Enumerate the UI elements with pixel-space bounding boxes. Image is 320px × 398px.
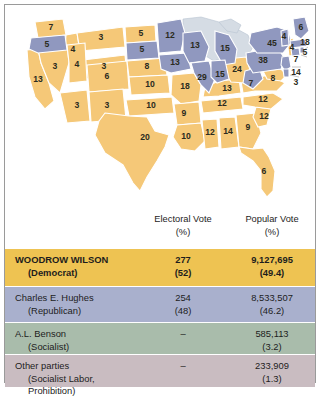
svg-text:9: 9 (246, 122, 251, 132)
popular-vote-cell: 233,909 (1.3) (229, 360, 315, 385)
map-svg: 7 5 4 3 3 13 3 4 6 3 3 5 5 8 10 10 20 12… (5, 5, 315, 205)
electoral-vote-percent: (48) (137, 305, 229, 318)
column-header-popular-vote: Popular Vote (%) (229, 213, 315, 247)
candidate-name: Charles E. Hughes (15, 292, 94, 303)
state-AR (174, 102, 201, 125)
electoral-vote-value: 254 (137, 292, 229, 305)
electoral-vote-value: – (137, 360, 229, 373)
svg-text:5: 5 (139, 28, 144, 38)
table-row: A.L. Benson (Socialist) – 585,113 (3.2) (5, 323, 315, 355)
popular-vote-percent: (46.2) (229, 305, 315, 318)
popular-vote-value: 585,113 (229, 328, 315, 341)
svg-text:3: 3 (294, 77, 299, 87)
candidate-party: (Socialist Labor, Prohibition) (15, 373, 140, 398)
svg-text:10: 10 (146, 100, 156, 110)
svg-text:3: 3 (75, 100, 80, 110)
table-row: Charles E. Hughes (Republican) 254 (48) … (5, 287, 315, 323)
svg-text:6: 6 (299, 22, 304, 32)
svg-text:15: 15 (215, 69, 225, 79)
electoral-vote-value: 277 (137, 254, 229, 267)
svg-text:8: 8 (271, 73, 276, 83)
svg-text:12: 12 (258, 94, 268, 104)
svg-text:10: 10 (145, 79, 155, 89)
candidate-party: (Democrat) (15, 267, 140, 280)
svg-text:4: 4 (290, 42, 295, 52)
svg-text:7: 7 (49, 22, 54, 32)
popular-vote-percent: (3.2) (229, 341, 315, 354)
results-table: Electoral Vote (%) Popular Vote (%) WOOD… (5, 205, 315, 382)
popular-vote-value: 9,127,695 (229, 254, 315, 267)
svg-text:12: 12 (165, 30, 175, 40)
candidate-name: WOODROW WILSON (15, 254, 108, 265)
state-FL (239, 147, 275, 197)
svg-text:13: 13 (170, 57, 180, 67)
svg-text:5: 5 (140, 44, 145, 54)
svg-text:45: 45 (267, 38, 277, 48)
svg-text:5: 5 (45, 39, 50, 49)
candidate-name-cell: A.L. Benson (Socialist) (15, 328, 140, 353)
svg-text:7: 7 (249, 78, 254, 88)
column-header-electoral-vote: Electoral Vote (%) (137, 213, 229, 247)
state-DE (283, 69, 289, 77)
svg-text:20: 20 (140, 132, 150, 142)
svg-text:9: 9 (182, 108, 187, 118)
electoral-vote-cell: – (137, 328, 229, 341)
electoral-header-line1: Electoral Vote (137, 213, 229, 226)
svg-text:10: 10 (181, 131, 191, 141)
electoral-map: 7 5 4 3 3 13 3 4 6 3 3 5 5 8 10 10 20 12… (5, 5, 315, 205)
svg-text:14: 14 (223, 126, 233, 136)
popular-vote-value: 233,909 (229, 360, 315, 373)
candidate-name-cell: Charles E. Hughes (Republican) (15, 292, 140, 317)
svg-text:6: 6 (262, 166, 267, 176)
popular-vote-cell: 8,533,507 (46.2) (229, 292, 315, 317)
popular-header-line1: Popular Vote (229, 213, 315, 226)
popular-header-line2: (%) (229, 226, 315, 239)
svg-text:38: 38 (258, 55, 268, 65)
state-TX (95, 113, 169, 191)
svg-text:6: 6 (105, 71, 110, 81)
electoral-vote-cell: 254 (48) (137, 292, 229, 317)
svg-text:15: 15 (220, 43, 230, 53)
svg-text:3: 3 (105, 100, 110, 110)
candidate-name: Other parties (15, 360, 69, 371)
electoral-vote-cell: – (137, 360, 229, 373)
svg-text:13: 13 (222, 83, 232, 93)
table-row: WOODROW WILSON (Democrat) 277 (52) 9,127… (5, 249, 315, 287)
svg-text:13: 13 (190, 40, 200, 50)
svg-text:3: 3 (102, 61, 107, 71)
svg-text:4: 4 (71, 44, 76, 54)
svg-text:14: 14 (291, 67, 301, 77)
popular-vote-cell: 585,113 (3.2) (229, 328, 315, 353)
popular-vote-cell: 9,127,695 (49.4) (229, 254, 315, 279)
svg-text:8: 8 (145, 61, 150, 71)
candidate-name-cell: WOODROW WILSON (Democrat) (15, 254, 140, 279)
popular-vote-value: 8,533,507 (229, 292, 315, 305)
svg-text:24: 24 (232, 64, 242, 74)
electoral-vote-value: – (137, 328, 229, 341)
candidate-name-cell: Other parties (Socialist Labor, Prohibit… (15, 360, 140, 398)
table-row: Other parties (Socialist Labor, Prohibit… (5, 355, 315, 387)
electoral-vote-cell: 277 (52) (137, 254, 229, 279)
electoral-header-line2: (%) (137, 226, 229, 239)
candidate-party: (Republican) (15, 305, 140, 318)
svg-text:3: 3 (53, 61, 58, 71)
svg-text:4: 4 (75, 59, 80, 69)
electoral-vote-percent: (52) (137, 267, 229, 280)
svg-text:5: 5 (303, 47, 308, 57)
svg-text:13: 13 (33, 74, 43, 84)
svg-text:29: 29 (197, 72, 207, 82)
popular-vote-percent: (1.3) (229, 373, 315, 386)
svg-text:18: 18 (180, 81, 190, 91)
svg-text:12: 12 (259, 111, 269, 121)
svg-text:18: 18 (300, 37, 310, 47)
svg-text:4: 4 (282, 31, 287, 41)
candidate-party: (Socialist) (15, 341, 140, 354)
svg-text:7: 7 (294, 54, 299, 64)
svg-text:12: 12 (217, 98, 227, 108)
svg-text:3: 3 (99, 32, 104, 42)
popular-vote-percent: (49.4) (229, 267, 315, 280)
candidate-name: A.L. Benson (15, 328, 66, 339)
svg-text:12: 12 (205, 127, 215, 137)
